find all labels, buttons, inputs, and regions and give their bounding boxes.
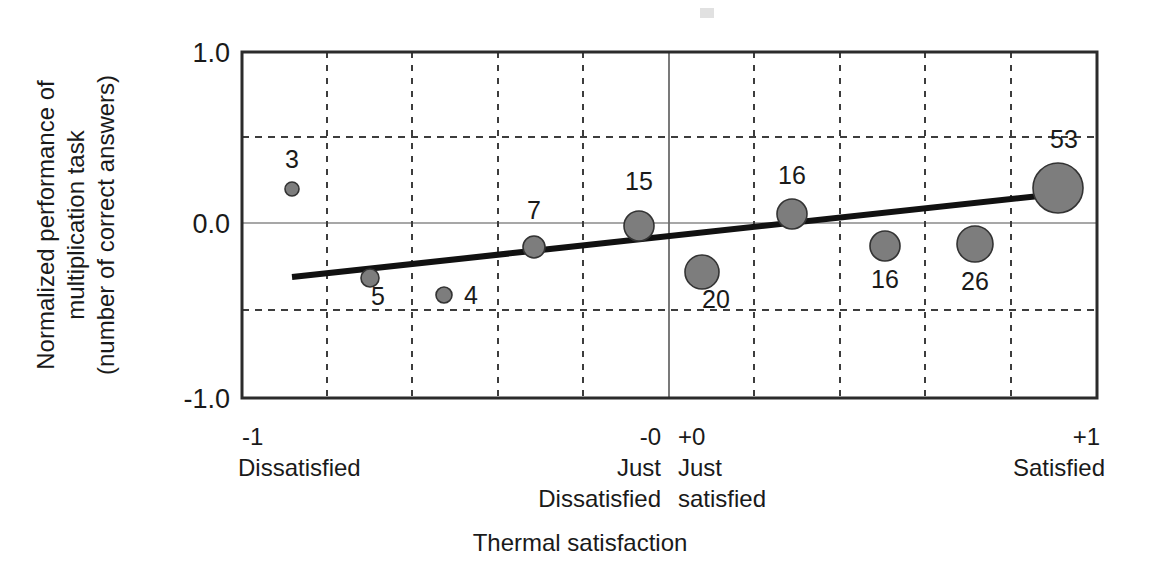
x-cat-value-neg0: -0	[640, 423, 661, 450]
data-point-bubble[interactable]	[436, 287, 452, 303]
x-cat-value-neg1: -1	[242, 423, 263, 450]
data-point-label: 16	[871, 265, 899, 293]
data-point-bubble[interactable]	[777, 199, 807, 229]
x-cat-value-pos0: +0	[678, 423, 705, 450]
y-axis-title-line3: (number of correct answers)	[92, 75, 119, 375]
chart-figure: 3 5 4 7 15 20 16 16 26 53 1.0 0.0 -1.0 -…	[0, 0, 1161, 565]
data-point-label: 5	[371, 282, 385, 310]
y-tick-label: 1.0	[192, 38, 230, 68]
y-axis-title-group: Normalized performance of multiplication…	[32, 75, 119, 375]
x-axis-title: Thermal satisfaction	[473, 529, 688, 556]
data-point-label: 3	[285, 145, 299, 173]
data-point-label: 26	[961, 267, 989, 295]
x-cat-line-pos0-1: Just	[678, 454, 722, 481]
x-cat-line-neg0-1: Just	[617, 454, 661, 481]
x-cat-value-pos1: +1	[1073, 423, 1100, 450]
data-point-label: 53	[1050, 125, 1078, 153]
data-point-bubble[interactable]	[957, 226, 993, 262]
y-tick-label: -1.0	[183, 384, 230, 414]
data-point-bubble[interactable]	[1033, 163, 1083, 213]
y-axis-title-line1: Normalized performance of	[32, 80, 59, 370]
data-point-bubble[interactable]	[685, 255, 719, 289]
data-point-label: 7	[527, 196, 541, 224]
data-point-bubble[interactable]	[523, 236, 545, 258]
x-cat-line-neg0-2: Dissatisfied	[538, 485, 661, 512]
x-axis-category-labels: -1 Dissatisfied -0 Just Dissatisfied +0 …	[238, 423, 1105, 512]
y-axis-tick-labels: 1.0 0.0 -1.0	[183, 38, 230, 414]
data-point-bubble[interactable]	[624, 211, 654, 241]
y-axis-title-line2: multiplication task	[62, 129, 89, 319]
scatter-plot-svg: 3 5 4 7 15 20 16 16 26 53 1.0 0.0 -1.0 -…	[0, 0, 1161, 565]
x-cat-line-neg1-1: Dissatisfied	[238, 454, 361, 481]
data-point-label: 16	[778, 161, 806, 189]
data-point-label: 4	[464, 281, 478, 309]
data-point-label: 15	[625, 167, 653, 195]
data-point-label: 20	[702, 285, 730, 313]
data-point-bubble[interactable]	[285, 182, 299, 196]
x-cat-line-pos1-1: Satisfied	[1013, 454, 1105, 481]
y-tick-label: 0.0	[192, 209, 230, 239]
data-point-bubble[interactable]	[870, 231, 900, 261]
x-cat-line-pos0-2: satisfied	[678, 485, 766, 512]
